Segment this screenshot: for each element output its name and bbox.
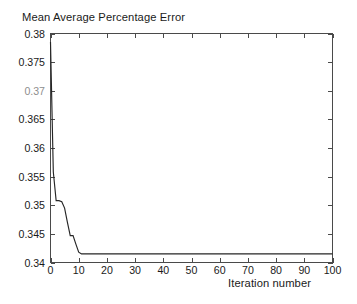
x-tick-label: 100 [324, 264, 342, 276]
y-tick-label: 0.375 [18, 56, 45, 68]
figure-canvas: Mean Average Percentage Error 0.380.3750… [0, 0, 357, 304]
axes-frame [51, 34, 333, 263]
data-series-line [51, 42, 333, 254]
x-tick-label: 70 [242, 264, 254, 276]
y-tick-label: 0.38 [24, 28, 45, 40]
x-tick-label: 0 [48, 264, 54, 276]
y-tick-label: 0.355 [18, 171, 45, 183]
x-tick-label: 30 [129, 264, 141, 276]
line-chart: 0.380.3750.370.3650.360.3550.350.3450.34… [0, 0, 357, 304]
y-tick-label: 0.365 [18, 113, 45, 125]
x-axis-tick-labels: 0102030405060708090100 [48, 264, 342, 276]
x-tick-label: 50 [186, 264, 198, 276]
y-tick-label: 0.37 [24, 85, 45, 97]
x-tick-label: 90 [298, 264, 310, 276]
x-tick-label: 20 [101, 264, 113, 276]
x-axis-label: Iteration number [228, 277, 311, 290]
y-tick-label: 0.35 [24, 199, 45, 211]
y-tick-label: 0.34 [24, 257, 45, 269]
x-tick-label: 80 [270, 264, 282, 276]
y-tick-label: 0.36 [24, 142, 45, 154]
y-axis-tick-labels: 0.380.3750.370.3650.360.3550.350.3450.34 [18, 28, 45, 269]
x-tick-label: 60 [214, 264, 226, 276]
x-tick-label: 40 [157, 264, 169, 276]
axis-tick-marks [51, 34, 334, 264]
y-tick-label: 0.345 [18, 228, 45, 240]
x-tick-label: 10 [73, 264, 85, 276]
